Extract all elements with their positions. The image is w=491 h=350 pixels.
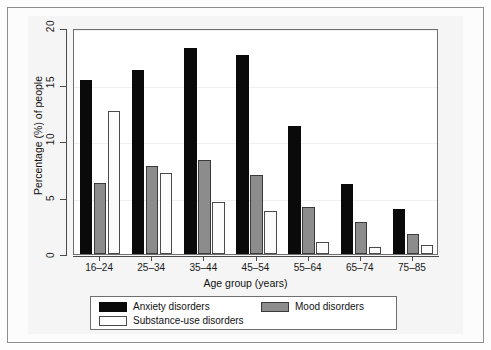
legend-item[interactable]: Substance-use disorders <box>99 315 244 326</box>
legend-item[interactable]: Anxiety disorders <box>99 301 210 312</box>
y-axis-tick-label: 15 <box>45 76 56 88</box>
white-swatch-icon <box>99 316 127 326</box>
y-axis-tick <box>60 86 66 87</box>
bar-mood <box>198 160 211 254</box>
bar-substance <box>421 245 434 254</box>
grey-swatch-icon <box>261 302 289 312</box>
y-axis-title: Percentage (%) of people <box>32 76 44 195</box>
x-axis-tick-label: 65–74 <box>330 262 390 273</box>
bar-substance <box>369 247 382 254</box>
y-axis-tick-label: 20 <box>45 20 56 32</box>
x-axis-tick-label: 45–54 <box>226 262 286 273</box>
black-swatch-icon <box>99 302 127 312</box>
plot-area <box>73 29 438 255</box>
bar-mood <box>250 175 263 254</box>
bar-mood <box>355 222 368 254</box>
x-axis-tick-label: 55–64 <box>278 262 338 273</box>
y-axis-tick-label: 0 <box>45 252 56 258</box>
x-axis-tick-label: 25–34 <box>121 262 181 273</box>
bar-mood <box>94 183 107 254</box>
bar-group <box>178 30 230 254</box>
bar-substance <box>212 202 225 254</box>
x-axis-tick-label: 16–24 <box>69 262 129 273</box>
bar-anxiety <box>393 209 406 254</box>
x-axis-tick <box>151 256 152 261</box>
bar-anxiety <box>341 184 354 254</box>
legend: Anxiety disordersMood disordersSubstance… <box>90 296 397 330</box>
bar-mood <box>302 207 315 254</box>
y-axis-tick <box>60 199 66 200</box>
x-axis-title: Age group (years) <box>0 277 491 289</box>
y-axis-line <box>66 29 67 256</box>
legend-item[interactable]: Mood disorders <box>261 301 364 312</box>
x-axis-tick <box>203 256 204 261</box>
y-axis-tick-label: 5 <box>45 195 56 201</box>
bar-group <box>387 30 439 254</box>
bar-substance <box>160 173 173 254</box>
legend-item-label: Anxiety disorders <box>133 301 210 312</box>
chart-figure: 05101520 Percentage (%) of people 16–242… <box>0 0 491 350</box>
bar-mood <box>146 166 159 254</box>
legend-item-label: Mood disorders <box>295 301 364 312</box>
bar-anxiety <box>184 48 197 254</box>
y-axis-tick-label: 10 <box>45 133 56 145</box>
y-axis-tick <box>60 255 66 256</box>
x-axis-tick-label: 35–44 <box>173 262 233 273</box>
bar-group <box>74 30 126 254</box>
bar-anxiety <box>288 126 301 254</box>
y-axis-tick <box>60 142 66 143</box>
bar-groups <box>74 30 437 254</box>
x-axis-tick <box>412 256 413 261</box>
x-axis-tick <box>308 256 309 261</box>
x-axis-tick <box>360 256 361 261</box>
bar-mood <box>407 234 420 254</box>
x-axis-tick <box>99 256 100 261</box>
legend-item-label: Substance-use disorders <box>133 315 244 326</box>
bar-anxiety <box>132 70 145 254</box>
bar-group <box>335 30 387 254</box>
bar-group <box>230 30 282 254</box>
x-axis-tick <box>256 256 257 261</box>
bar-substance <box>316 242 329 254</box>
bar-substance <box>264 211 277 254</box>
x-axis-tick-label: 75–85 <box>382 262 442 273</box>
y-axis-tick <box>60 29 66 30</box>
bar-group <box>126 30 178 254</box>
bar-anxiety <box>80 80 93 254</box>
bar-substance <box>108 111 121 255</box>
bar-anxiety <box>236 55 249 254</box>
bar-group <box>283 30 335 254</box>
